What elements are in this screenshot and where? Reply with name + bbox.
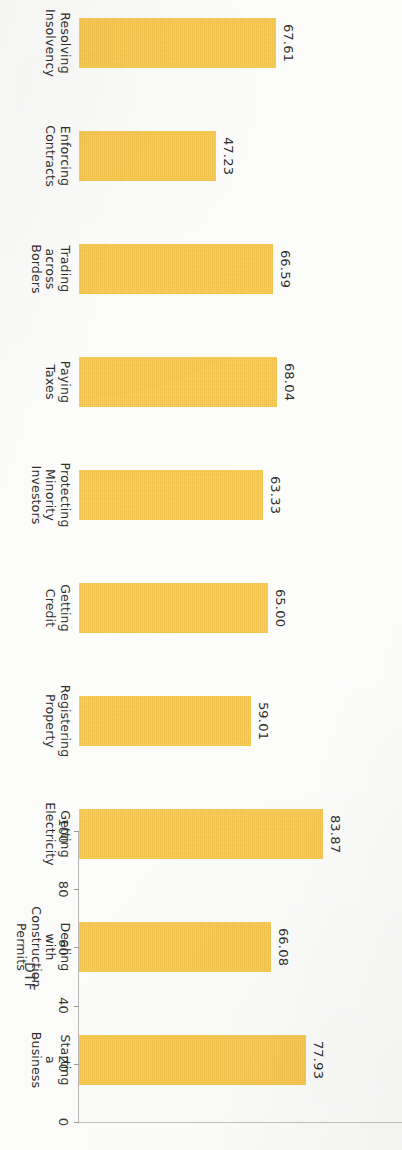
bar-value-label: 63.33 (268, 470, 283, 520)
category-label-line: a (43, 1001, 58, 1119)
category-axis-line (79, 1122, 402, 1123)
category-label-line: Resolving (58, 0, 73, 102)
bar-group: 83.87GettingElectricity (0, 809, 402, 859)
bar[interactable] (79, 18, 276, 68)
category-label: GettingElectricity (43, 775, 72, 893)
bar-group: 47.23EnforcingContracts (0, 131, 402, 181)
bar-group: 68.04PayingTaxes (0, 357, 402, 407)
scanned-chart-page: 020406080100 77.93StartingaBusiness66.08… (0, 0, 402, 1150)
value-axis-tick (74, 1006, 79, 1007)
category-label: ProtectingMinorityInvestors (29, 436, 73, 554)
bar[interactable] (79, 131, 216, 181)
category-label-line: across (43, 210, 58, 328)
bar[interactable] (79, 583, 268, 633)
bar[interactable] (79, 244, 273, 294)
category-label-line: Trading (58, 210, 73, 328)
bar-value-label: 47.23 (221, 131, 236, 181)
bar-value-label: 67.61 (281, 18, 296, 68)
category-label-line: Borders (29, 210, 44, 328)
bar-chart-figure: 020406080100 77.93StartingaBusiness66.08… (0, 0, 402, 1150)
bar-group: 63.33ProtectingMinorityInvestors (0, 470, 402, 520)
bar-value-label: 77.93 (311, 1035, 326, 1085)
bar-group: 67.61ResolvingInsolvency (0, 18, 402, 68)
category-label-line: Contracts (43, 97, 58, 215)
plot-area: 020406080100 77.93StartingaBusiness66.08… (0, 0, 402, 1150)
category-label-line: Taxes (43, 323, 58, 441)
bar-value-label: 65.00 (273, 583, 288, 633)
category-label: RegisteringProperty (43, 662, 72, 780)
category-label-line: Getting (58, 549, 73, 667)
value-axis-tick-label: 0 (56, 1118, 71, 1126)
bar-group: 59.01RegisteringProperty (0, 696, 402, 746)
bar-group: 77.93StartingaBusiness (0, 1035, 402, 1085)
category-label-line: Getting (58, 775, 73, 893)
category-label-line: with (43, 888, 58, 1006)
rotated-chart-stage: 020406080100 77.93StartingaBusiness66.08… (0, 0, 402, 1150)
bar[interactable] (79, 922, 271, 972)
category-label-line: Insolvency (43, 0, 58, 102)
bar-value-label: 83.87 (328, 809, 343, 859)
bar-value-label: 66.59 (278, 244, 293, 294)
category-label-line: Credit (43, 549, 58, 667)
category-label: PayingTaxes (43, 323, 72, 441)
bar[interactable] (79, 696, 251, 746)
category-label: GettingCredit (43, 549, 72, 667)
bar-group: 65.00GettingCredit (0, 583, 402, 633)
category-label-line: Registering (58, 662, 73, 780)
bar[interactable] (79, 1035, 306, 1085)
bar[interactable] (79, 809, 323, 859)
bar-group: 66.59TradingacrossBorders (0, 244, 402, 294)
category-label: EnforcingContracts (43, 97, 72, 215)
bar-value-label: 59.01 (256, 696, 271, 746)
value-axis-tick (74, 889, 79, 890)
category-label-line: Paying (58, 323, 73, 441)
category-label: TradingacrossBorders (29, 210, 73, 328)
value-axis-title: DTF (22, 831, 38, 1122)
bar[interactable] (79, 357, 277, 407)
category-label-line: Electricity (43, 775, 58, 893)
bar-value-label: 66.08 (276, 922, 291, 972)
category-label-line: Starting (58, 1001, 73, 1119)
category-label-line: Protecting (58, 436, 73, 554)
bar-value-label: 68.04 (282, 357, 297, 407)
bar[interactable] (79, 470, 263, 520)
category-label-line: Enforcing (58, 97, 73, 215)
bar-group: 66.08DealingwithConstructionPermits (0, 922, 402, 972)
value-axis-tick (74, 1122, 79, 1123)
category-label-line: Minority (43, 436, 58, 554)
category-label: ResolvingInsolvency (43, 0, 72, 102)
category-label-line: Investors (29, 436, 44, 554)
category-label-line: Dealing (58, 888, 73, 1006)
category-label-line: Property (43, 662, 58, 780)
